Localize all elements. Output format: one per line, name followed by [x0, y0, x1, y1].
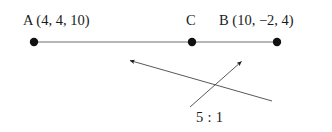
point-dot-c: [188, 38, 196, 46]
point-dot-b: [273, 38, 281, 46]
ratio-arrow-right: [190, 62, 242, 108]
point-label-c: C: [186, 13, 196, 28]
point-dot-a: [30, 38, 38, 46]
ratio-arrow-left: [130, 61, 272, 102]
geometry-figure: A (4, 4, 10) C B (10, −2, 4) 5 : 1: [0, 0, 332, 132]
point-label-a: A (4, 4, 10): [23, 13, 89, 28]
point-label-b: B (10, −2, 4): [219, 13, 294, 28]
ratio-label: 5 : 1: [196, 110, 223, 125]
